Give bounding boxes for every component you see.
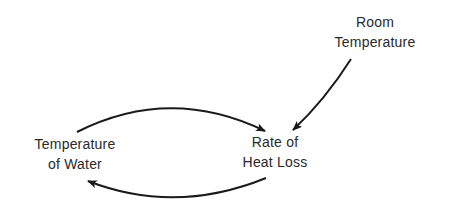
node-temperature-of-water-line-1: Temperature — [15, 134, 135, 154]
arrow-room-to-rate — [293, 59, 351, 130]
node-rate-of-heat-loss-line-2: Heat Loss — [225, 152, 325, 172]
node-temperature-of-water-line-2: of Water — [15, 154, 135, 174]
arrow-rate-to-water — [88, 178, 266, 197]
arrow-water-to-rate — [77, 108, 265, 132]
node-room-temperature: Room Temperature — [325, 12, 425, 52]
node-room-temperature-line-2: Temperature — [325, 32, 425, 52]
node-rate-of-heat-loss: Rate of Heat Loss — [225, 132, 325, 172]
node-temperature-of-water: Temperature of Water — [15, 134, 135, 174]
node-rate-of-heat-loss-line-1: Rate of — [225, 132, 325, 152]
node-room-temperature-line-1: Room — [325, 12, 425, 32]
